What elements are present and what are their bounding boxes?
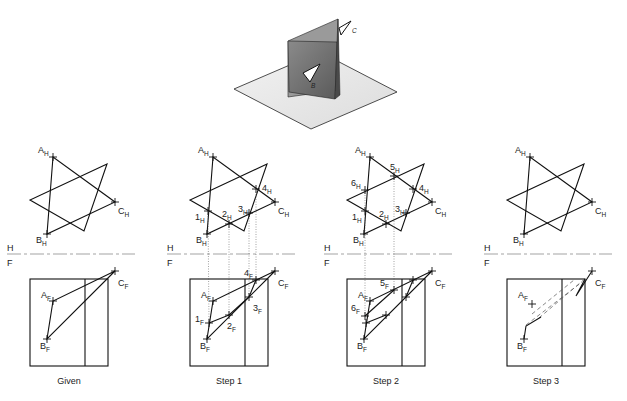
- point-4-f: [252, 276, 260, 284]
- plane-triangle-top-view: [507, 164, 584, 231]
- fold-label-f: F: [7, 258, 13, 268]
- panel-caption: Step 2: [373, 376, 399, 386]
- label-a-f: AF: [358, 290, 368, 302]
- triangle-abc-top-view: [47, 157, 115, 234]
- triangle-abc-front-view: [47, 271, 115, 339]
- point-b-h: [360, 230, 368, 238]
- point-front-5: [409, 276, 417, 284]
- label-1-h: 1H: [195, 212, 205, 224]
- isometric-illustration: B C: [234, 19, 397, 129]
- label-b-f: BF: [40, 341, 50, 353]
- label-3-f: 3F: [253, 303, 262, 315]
- label-c-h: CH: [118, 206, 130, 218]
- label-b-f: BF: [517, 341, 527, 353]
- label-a-f: AF: [201, 290, 211, 302]
- label-a-f: AF: [518, 290, 528, 302]
- point-a-h: [366, 153, 374, 161]
- fold-label-f: F: [167, 258, 173, 268]
- fold-label-f: F: [324, 258, 330, 268]
- iso-label-c: C: [352, 27, 357, 34]
- label-1-h: 1H: [352, 212, 362, 224]
- point-a-h: [209, 153, 217, 161]
- fold-label-f: F: [484, 258, 490, 268]
- label-6-f: 6F: [351, 303, 360, 315]
- point-a-h: [526, 153, 534, 161]
- panel-caption: Given: [57, 376, 81, 386]
- triangle-abc-top-view: [207, 157, 275, 234]
- panel-step-1: AHBHCHHFAFBFCFStep 11H2H3H4H1F2F3F4F: [167, 145, 295, 386]
- point-b-h: [43, 230, 51, 238]
- point-1-f: [205, 319, 213, 327]
- label-b-h: BH: [353, 235, 364, 247]
- label-c-h: CH: [435, 206, 447, 218]
- label-c-f: CF: [435, 278, 446, 290]
- triangle-abc-front-view: [207, 271, 275, 339]
- point-b-h: [203, 230, 211, 238]
- fold-label-h: H: [7, 243, 14, 253]
- panel-step-3: AHBHCHHFAFBFCFStep 3: [484, 145, 612, 386]
- triangle-abc-front-view: [364, 271, 432, 339]
- point-c-f: [588, 267, 596, 275]
- label-a-h: AH: [38, 145, 49, 157]
- label-a-h: AH: [198, 145, 209, 157]
- label-1-f: 1F: [195, 314, 204, 326]
- label-6-h: 6H: [351, 178, 361, 190]
- triangle-abc-top-view: [524, 157, 592, 234]
- panel-caption: Step 1: [216, 376, 242, 386]
- label-c-f: CF: [278, 278, 289, 290]
- panel-step-2: AHBHCHHFAFBFCFStep 21H2H3H4H5H6H5F6F: [324, 145, 452, 386]
- visible-edge-upper: [576, 271, 592, 296]
- label-c-h: CH: [595, 206, 607, 218]
- panel-given: AHBHCHHFAFBFCFGiven: [7, 145, 135, 386]
- label-a-f: AF: [41, 290, 51, 302]
- descriptive-geometry-figure: B C AHBHCHHFAFBFCFGivenAHBHCHHFAFBFCFSte…: [0, 0, 627, 401]
- label-c-h: CH: [278, 206, 290, 218]
- point-c-h: [588, 198, 596, 206]
- label-2-f: 2F: [227, 321, 236, 333]
- label-b-h: BH: [36, 235, 47, 247]
- point-c-h: [428, 198, 436, 206]
- label-a-h: AH: [355, 145, 366, 157]
- label-c-f: CF: [118, 278, 129, 290]
- point-a-f: [528, 300, 536, 308]
- label-b-f: BF: [357, 341, 367, 353]
- panel-caption: Step 3: [533, 376, 559, 386]
- iso-label-b: B: [311, 82, 316, 89]
- point-c-h: [271, 198, 279, 206]
- point-a-h: [49, 153, 57, 161]
- label-b-h: BH: [513, 235, 524, 247]
- label-4-f: 4F: [244, 268, 253, 280]
- label-a-h: AH: [515, 145, 526, 157]
- label-b-f: BF: [200, 341, 210, 353]
- point-c-h: [111, 198, 119, 206]
- fold-label-h: H: [484, 243, 491, 253]
- point-b-h: [520, 230, 528, 238]
- triangle-c-plane: [339, 21, 351, 35]
- point-front-2: [362, 319, 370, 327]
- fold-label-h: H: [324, 243, 331, 253]
- label-5-f: 5F: [380, 278, 389, 290]
- fold-label-h: H: [167, 243, 174, 253]
- label-b-h: BH: [196, 235, 207, 247]
- label-c-f: CF: [595, 278, 606, 290]
- plane-triangle-top-view: [30, 164, 107, 231]
- point-front-3: [382, 311, 390, 319]
- label-3-h: 3H: [395, 204, 405, 216]
- label-3-h: 3H: [238, 204, 248, 216]
